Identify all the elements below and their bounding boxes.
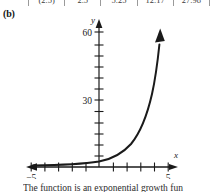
y-axis-arrowhead xyxy=(96,19,103,28)
table-row: (2.5) 2.5 5.25 12.17 27.98 xyxy=(29,0,210,6)
y-tick-label-60: 60 xyxy=(83,28,93,38)
table-cell-3: 12.17 xyxy=(137,0,173,6)
exponential-curve xyxy=(33,45,159,166)
y-axis-label: y xyxy=(90,15,95,25)
table-cell-2: 5.25 xyxy=(101,0,137,6)
x-axis-right-arrowhead xyxy=(169,164,178,170)
x-axis-label: x xyxy=(173,150,178,160)
curve-arrowhead xyxy=(155,29,165,43)
figure-caption: The function is an exponential growth fu… xyxy=(23,183,210,192)
data-table: (2.5) 2.5 5.25 12.17 27.98 xyxy=(28,0,210,6)
table-cell-0: (2.5) xyxy=(29,0,65,6)
y-tick-label-30: 30 xyxy=(83,96,93,106)
table-cell-4: 27.98 xyxy=(173,0,209,6)
x-tick-label-minus5: −5 xyxy=(26,173,36,179)
table-cell-1: 2.5 xyxy=(65,0,101,6)
graph-container: 60 30 −5 5 y x xyxy=(0,14,210,179)
x-tick-label-5: 5 xyxy=(166,173,171,179)
figure-page: (2.5) 2.5 5.25 12.17 27.98 (b) xyxy=(0,0,210,193)
clipped-table-row: (2.5) 2.5 5.25 12.17 27.98 xyxy=(28,0,210,6)
exponential-growth-chart: 60 30 −5 5 y x xyxy=(0,14,210,179)
